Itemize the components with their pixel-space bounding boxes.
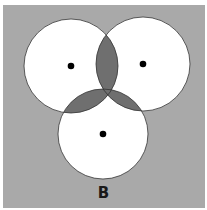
dot-right — [140, 61, 147, 68]
dot-left — [68, 63, 75, 70]
dot-bottom — [100, 131, 107, 138]
venn-diagram — [0, 0, 207, 210]
figure-label: B — [0, 184, 207, 202]
